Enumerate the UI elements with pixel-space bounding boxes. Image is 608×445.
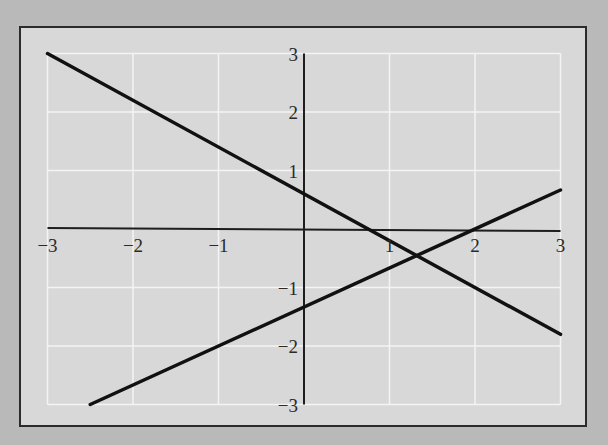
y-tick-label: −3: [278, 395, 298, 416]
x-tick-label: 2: [470, 235, 480, 256]
x-tick-label: −2: [123, 235, 143, 256]
x-tick-label: 1: [385, 235, 395, 256]
x-tick-label: −1: [208, 235, 228, 256]
y-tick-label: −2: [278, 336, 298, 357]
y-tick-label: 1: [289, 161, 299, 182]
y-tick-label: −1: [278, 278, 298, 299]
line-chart: −3−2−1123 321−1−2−3: [0, 0, 608, 445]
chart-figure: −3−2−1123 321−1−2−3: [0, 0, 608, 445]
y-tick-label: 3: [289, 44, 299, 65]
x-tick-label: −3: [37, 235, 57, 256]
y-tick-label: 2: [289, 102, 299, 123]
x-tick-label: 3: [556, 235, 566, 256]
